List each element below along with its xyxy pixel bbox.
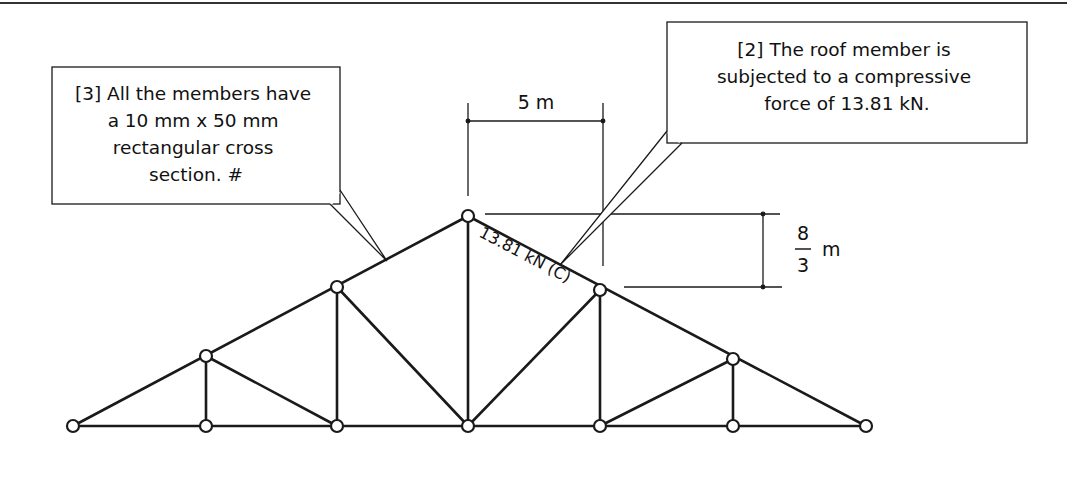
vertical-dimension-numerator: 8 xyxy=(797,222,809,244)
callout-3-line: a 10 mm x 50 mm xyxy=(108,110,279,131)
callout-3-line: rectangular cross xyxy=(113,137,273,158)
callout-2: [2] The roof member is subjected to a co… xyxy=(560,22,1027,265)
vertical-dimension-denominator: 3 xyxy=(797,254,809,276)
truss-joints xyxy=(67,210,872,432)
callout-3: [3] All the members have a 10 mm x 50 mm… xyxy=(52,67,387,261)
callout-2-line: [2] The roof member is xyxy=(737,39,950,60)
callout-2-line: subjected to a compressive xyxy=(717,66,971,87)
truss-members xyxy=(73,216,866,426)
callout-2-line: force of 13.81 kN. xyxy=(764,93,929,114)
callout-3-line: [3] All the members have xyxy=(75,83,311,104)
vertical-dimension-unit: m xyxy=(822,238,841,260)
callout-3-line: section. # xyxy=(149,164,243,185)
member-force-label: 13.81 kN (C) xyxy=(476,223,574,287)
truss-diagram: 5 m 8 3 m xyxy=(0,0,1067,477)
horizontal-dimension-label: 5 m xyxy=(518,91,555,113)
